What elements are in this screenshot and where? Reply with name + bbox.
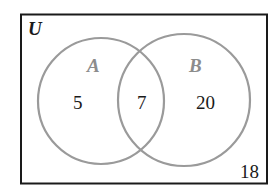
set-b-only-count: 20 [196, 92, 215, 113]
intersection-count: 7 [137, 92, 147, 113]
outside-count: 18 [240, 161, 259, 182]
set-b-label: B [188, 55, 202, 76]
set-a-label: A [86, 55, 100, 76]
venn-diagram: U A B 5 7 20 18 [0, 0, 272, 187]
set-a-only-count: 5 [73, 92, 83, 113]
universe-label: U [28, 18, 43, 39]
